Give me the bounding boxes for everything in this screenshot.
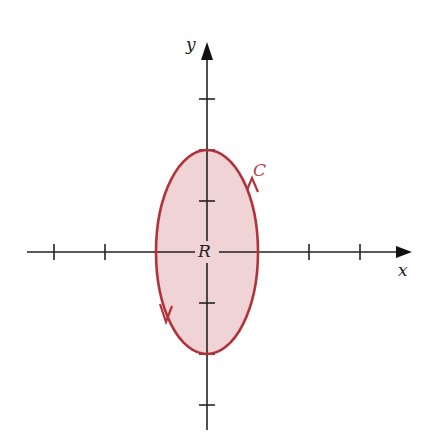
x-axis-label: x <box>398 262 408 279</box>
y-axis-label: y <box>186 36 196 53</box>
x-axis-arrow-icon <box>396 246 412 258</box>
diagram-canvas <box>0 0 437 448</box>
y-axis-arrow-icon <box>201 42 213 60</box>
curve-label: C <box>253 162 266 179</box>
region-label: R <box>198 243 211 260</box>
